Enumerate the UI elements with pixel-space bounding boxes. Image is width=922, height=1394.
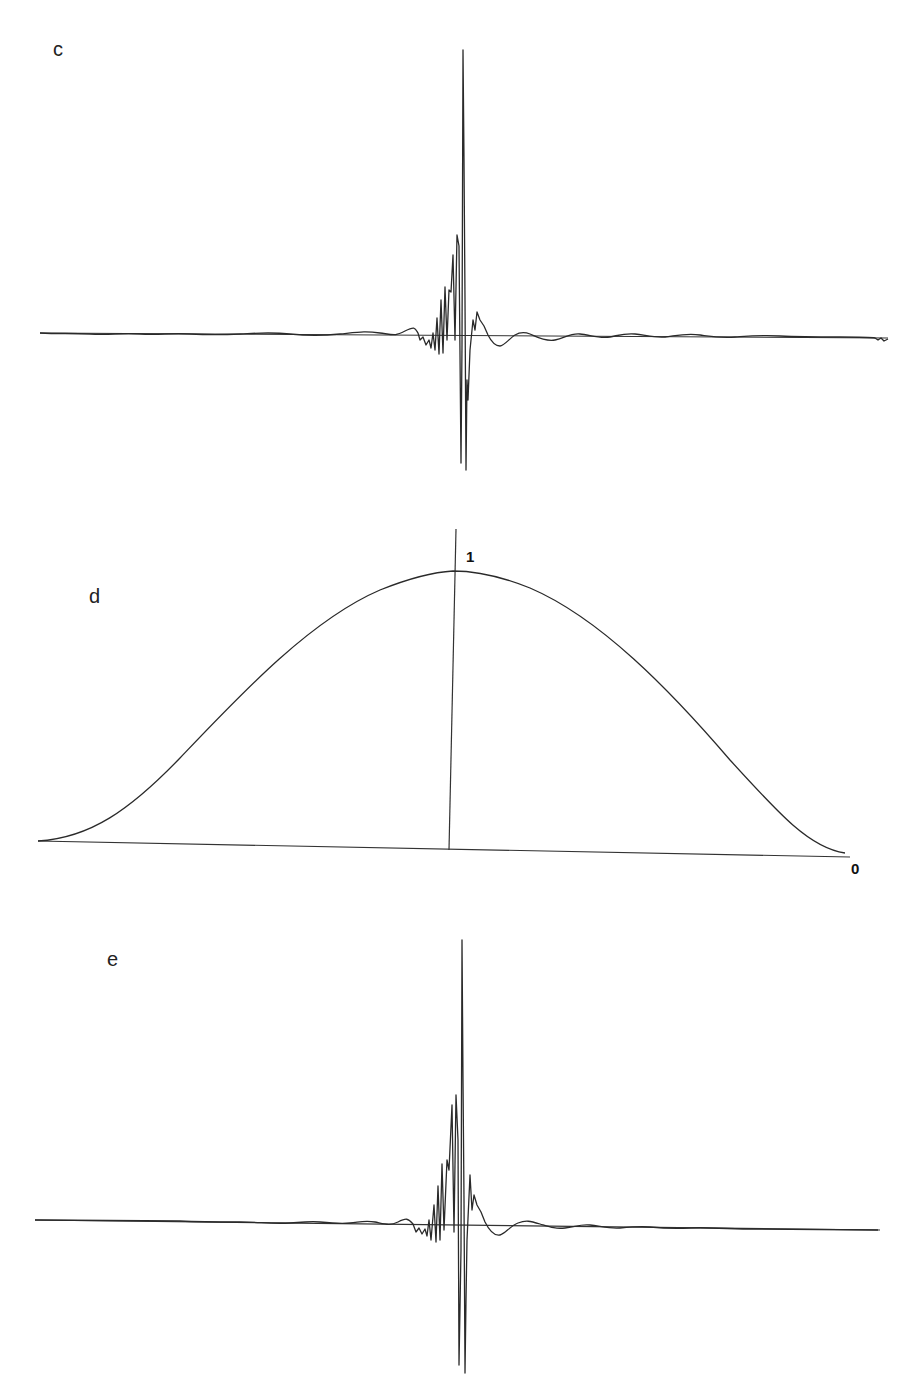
plot-e bbox=[35, 940, 880, 1373]
plot-c-trace bbox=[40, 50, 888, 470]
plot-c bbox=[40, 50, 888, 470]
plot-d-y-axis bbox=[449, 529, 456, 850]
plot-e-trace bbox=[35, 940, 878, 1373]
plot-d-x-axis bbox=[38, 841, 850, 857]
plot-d-window-curve bbox=[38, 571, 845, 853]
figure-canvas bbox=[0, 0, 922, 1394]
plot-d bbox=[38, 529, 850, 857]
